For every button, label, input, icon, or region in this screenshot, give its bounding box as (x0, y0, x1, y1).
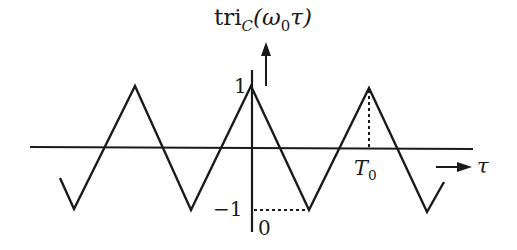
x-origin-label: 0 (258, 216, 271, 240)
title-arg-sub: 0 (281, 17, 291, 35)
arrow-right-icon (457, 162, 472, 172)
waveform-plot (0, 0, 517, 250)
period-label-main: T (354, 156, 368, 180)
title-arg-end: τ) (290, 4, 312, 30)
period-label-sub: 0 (368, 167, 377, 183)
arrow-up-icon (261, 42, 271, 56)
title-func: tri (214, 4, 242, 30)
y-tick-top: 1 (234, 74, 247, 98)
title-arg: (ω (253, 4, 281, 30)
y-tick-bottom: −1 (213, 197, 242, 221)
period-label: T0 (354, 156, 377, 183)
function-title: triC(ω0τ) (214, 4, 312, 35)
x-axis-label: τ (477, 154, 489, 178)
triangle-wave-diagram: triC(ω0τ) 1 −1 0 T0 τ (0, 0, 517, 250)
title-sub: C (242, 17, 253, 35)
